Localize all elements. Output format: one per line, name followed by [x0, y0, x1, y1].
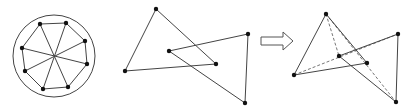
- vertex-point: [292, 73, 296, 77]
- vertex-point: [246, 32, 250, 36]
- vertex-point: [20, 46, 24, 50]
- vertex-point: [23, 69, 27, 73]
- edge: [85, 41, 87, 64]
- edge: [169, 51, 245, 103]
- edge: [294, 14, 326, 75]
- vertex-point: [41, 87, 45, 91]
- octagon-figure: [13, 15, 95, 97]
- edge: [339, 34, 398, 56]
- edge: [125, 9, 156, 71]
- edge: [156, 9, 216, 64]
- edge: [294, 63, 367, 75]
- edge: [125, 64, 216, 71]
- vertex-point: [396, 32, 400, 36]
- vertex-point: [337, 54, 341, 58]
- vertex-point: [394, 100, 398, 104]
- vertex-point: [123, 69, 127, 73]
- vertex-point: [243, 101, 247, 105]
- edge: [22, 48, 87, 64]
- vertex-point: [154, 7, 158, 11]
- vertex-point: [365, 61, 369, 65]
- vertex-point: [324, 12, 328, 16]
- arrow-icon: [261, 32, 293, 50]
- edge: [169, 34, 248, 51]
- vertex-point: [167, 49, 171, 53]
- diagram-canvas: [0, 0, 414, 112]
- edge: [245, 34, 248, 103]
- vertex-point: [38, 22, 42, 26]
- dashed-triangles-figure: [292, 12, 400, 104]
- edge: [25, 71, 43, 89]
- edge: [40, 23, 66, 24]
- vertex-point: [66, 85, 70, 89]
- vertex-point: [85, 62, 89, 66]
- two-triangles-figure: [123, 7, 250, 105]
- vertex-point: [64, 21, 68, 25]
- edge: [43, 87, 68, 89]
- edge: [22, 48, 25, 71]
- edge: [396, 34, 398, 102]
- edge: [326, 14, 367, 63]
- dashed-edge: [326, 14, 339, 56]
- vertex-point: [214, 62, 218, 66]
- vertex-point: [83, 39, 87, 43]
